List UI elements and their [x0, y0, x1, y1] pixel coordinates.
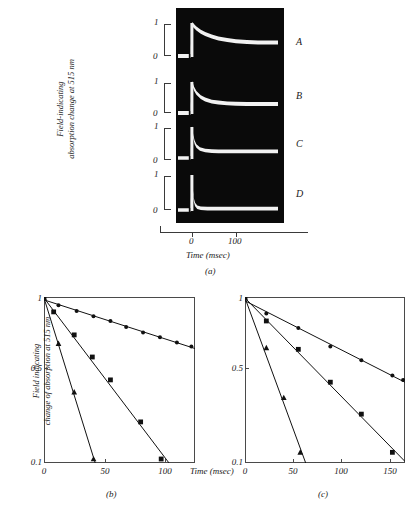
bracket-shape: [164, 128, 171, 160]
scale-bottom-value-b: 0: [153, 108, 158, 118]
panel-c-caption: (c): [318, 489, 328, 499]
bracket-shape: [164, 176, 171, 210]
panel-b: [44, 297, 195, 463]
panel-a-xticklabel-100: 100: [228, 236, 242, 246]
panel-a-ylabel: Field-indicating absorption change at 51…: [55, 34, 77, 184]
panel-b-yticklabel-01: 0.1: [20, 457, 42, 467]
scale-bottom-value-c: 0: [153, 155, 158, 165]
trace-label-d: D: [296, 188, 303, 199]
panel-a-xticklabel-0: 0: [189, 236, 194, 246]
trace-label-a: A: [296, 36, 302, 47]
panel-b-xticklabel-50: 50: [101, 466, 110, 476]
panel-c-xtick-0: [245, 459, 246, 463]
panel-c-yticklabel-1: 1: [233, 293, 243, 303]
oscilloscope-screen: [176, 8, 284, 223]
panel-b-caption: (b): [106, 489, 117, 499]
panel-c-ytick-05: [245, 368, 249, 369]
panel-c-xticklabel-100: 100: [334, 466, 348, 476]
panel-b-xticklabel-100: 100: [158, 466, 172, 476]
panel-c-xticklabel-50: 50: [289, 466, 298, 476]
scale-top-value-c: 1: [154, 121, 159, 131]
panel-bc-xlabel: Time (msec): [190, 466, 234, 476]
trace-label-b: B: [296, 90, 302, 101]
panel-b-ylabel-line2: change of absorption at 515 nm: [42, 286, 53, 456]
panel-a-ylabel-line2: absorption change at 515 nm: [66, 34, 77, 184]
panel-b-xtick-100: [165, 459, 166, 463]
panel-b-yticklabel-1: 1: [32, 293, 42, 303]
scale-top-value-d: 1: [154, 169, 159, 179]
panel-b-xtick-0: [44, 459, 45, 463]
panel-b-plot-area: [44, 297, 195, 463]
panel-b-ytick-05: [44, 368, 48, 369]
panel-c-xticklabel-0: 0: [243, 466, 248, 476]
panel-c-yticklabel-05: 0.5: [221, 363, 243, 373]
bracket-shape: [164, 83, 171, 113]
scale-bracket-a: 1 0: [160, 24, 170, 54]
panel-c-xtick-150: [390, 459, 391, 463]
panel-a: Field-indicating absorption change at 51…: [0, 0, 417, 270]
scale-bracket-c: 1 0: [160, 128, 170, 158]
panel-b-xtick-50: [105, 459, 106, 463]
scale-bracket-d: 1 0: [160, 176, 170, 208]
panel-a-xaxis-endcap: [160, 226, 161, 233]
panel-c-xticklabel-150: 150: [383, 466, 397, 476]
panel-b-yticklabel-05: 0.5: [20, 363, 42, 373]
panel-c-xtick-50: [293, 459, 294, 463]
trace-label-c: C: [296, 138, 303, 149]
figure-root: Field-indicating absorption change at 51…: [0, 0, 417, 507]
scale-top-value-a: 1: [154, 17, 159, 27]
panel-a-ylabel-line1: Field-indicating: [55, 34, 66, 184]
scale-bottom-value-d: 0: [153, 205, 158, 215]
panel-b-xticklabel-0: 0: [42, 466, 47, 476]
scale-bottom-value-a: 0: [153, 51, 158, 61]
panel-c: [245, 297, 405, 463]
panel-a-xaxis-line: [160, 232, 308, 233]
panel-a-caption: (a): [205, 266, 216, 276]
scale-top-value-b: 1: [154, 76, 159, 86]
bracket-shape: [164, 24, 171, 56]
panel-c-xtick-100: [341, 459, 342, 463]
panel-c-plot-area: [245, 297, 405, 463]
oscilloscope-traces: [176, 8, 284, 223]
panel-a-xlabel: Time (msec): [186, 250, 230, 260]
scale-bracket-b: 1 0: [160, 83, 170, 111]
